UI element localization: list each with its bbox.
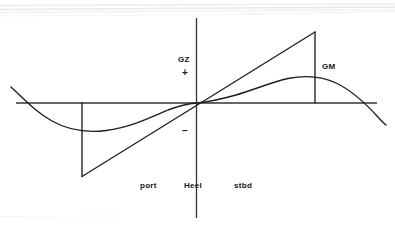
heel-axis-label: Heel xyxy=(184,182,202,190)
negative-sign-label: – xyxy=(182,126,188,136)
gm-label: GM xyxy=(322,63,336,71)
port-side-label: port xyxy=(140,182,157,190)
positive-sign-label: + xyxy=(182,68,188,78)
gz-axis-label: GZ xyxy=(178,56,190,64)
diagram-canvas xyxy=(0,0,395,229)
gm-tangent-line xyxy=(82,32,315,177)
gz-curve-diagram: GZ + – GM port Heel stbd xyxy=(0,0,395,229)
starboard-side-label: stbd xyxy=(234,182,252,190)
